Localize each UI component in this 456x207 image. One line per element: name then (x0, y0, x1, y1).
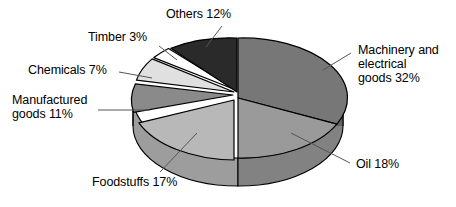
slice-label-manufactured-line1: Manufactured (12, 94, 87, 108)
pie-chart: Others 12% Timber 3% Chemicals 7% Manufa… (0, 0, 456, 207)
slice-label-others: Others 12% (166, 8, 231, 22)
slice-label-manufactured-line2: goods 11% (12, 108, 73, 122)
slice-label-machinery-line1: Machinery and (358, 44, 439, 58)
pie-top-face (131, 38, 347, 160)
slice-label-chemicals: Chemicals 7% (28, 64, 107, 78)
slice-label-timber: Timber 3% (88, 31, 147, 45)
slice-label-foodstuffs: Foodstuffs 17% (92, 176, 177, 190)
leader-line-machinery (323, 53, 351, 70)
slice-label-machinery-line3: goods 32% (358, 72, 420, 86)
slice-label-oil: Oil 18% (356, 158, 399, 172)
slice-label-machinery-line2: electrical (358, 58, 406, 72)
